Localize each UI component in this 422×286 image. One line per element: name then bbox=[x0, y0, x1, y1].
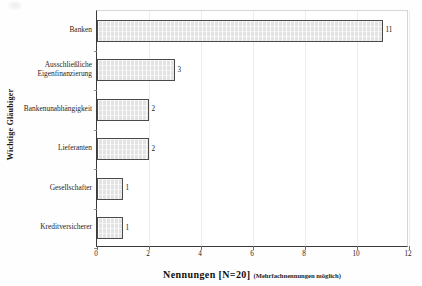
x-tick-mark bbox=[409, 246, 410, 250]
x-tick-mark bbox=[357, 246, 358, 250]
bar-value-label: 3 bbox=[178, 67, 182, 74]
bar[interactable] bbox=[97, 20, 383, 42]
x-tick-label: 6 bbox=[250, 250, 254, 258]
category-label: Kreditversicherer bbox=[18, 223, 92, 232]
bar-value-label: 2 bbox=[152, 146, 156, 153]
x-tick-mark bbox=[97, 246, 98, 250]
bar[interactable] bbox=[97, 99, 149, 121]
y-axis-title-text: Wichtige Gläubiger bbox=[7, 88, 16, 159]
bar-row[interactable]: 2 bbox=[97, 99, 155, 121]
bar-row[interactable]: 1 bbox=[97, 217, 129, 239]
bar[interactable] bbox=[97, 59, 175, 81]
y-tick-mark bbox=[94, 169, 98, 170]
x-tick-label: 2 bbox=[146, 250, 150, 258]
bar[interactable] bbox=[97, 138, 149, 160]
gridline bbox=[409, 11, 410, 246]
bar-chart: Wichtige Gläubiger BankenAusschließliche… bbox=[0, 0, 422, 286]
x-tick-label: 10 bbox=[352, 250, 359, 258]
x-tick-label: 12 bbox=[404, 250, 411, 258]
bar-value-label: 1 bbox=[126, 185, 130, 192]
bar-value-label: 2 bbox=[152, 106, 156, 113]
bar[interactable] bbox=[97, 178, 123, 200]
bar-row[interactable]: 3 bbox=[97, 59, 181, 81]
x-tick-label: 0 bbox=[94, 250, 98, 258]
x-tick-label: 8 bbox=[302, 250, 306, 258]
y-tick-mark bbox=[94, 209, 98, 210]
category-label: Banken bbox=[18, 25, 92, 34]
plot-area: 1132211 bbox=[96, 10, 408, 247]
bar-value-label: 11 bbox=[386, 27, 393, 34]
category-label-list: BankenAusschließlicheEigenfinanzierungBa… bbox=[18, 0, 92, 248]
x-axis-title-note: (Mehrfachnennungen möglich) bbox=[254, 272, 341, 279]
x-tick-mark bbox=[253, 246, 254, 250]
x-axis-title-main: Nennungen [N=20] bbox=[163, 269, 250, 280]
bar[interactable] bbox=[97, 217, 123, 239]
bar-row[interactable]: 1 bbox=[97, 178, 129, 200]
category-label: Lieferanten bbox=[18, 144, 92, 153]
bar-row[interactable]: 11 bbox=[97, 20, 392, 42]
y-tick-mark bbox=[94, 90, 98, 91]
y-tick-mark bbox=[94, 130, 98, 131]
category-label: Bankenunabhängigkeit bbox=[18, 104, 92, 113]
x-tick-label: 4 bbox=[198, 250, 202, 258]
category-label: Gesellschafter bbox=[18, 183, 92, 192]
category-label: AusschließlicheEigenfinanzierung bbox=[18, 60, 92, 78]
x-tick-label-list: 024681012 bbox=[96, 250, 408, 262]
x-axis-title: Nennungen [N=20](Mehrfachnennungen mögli… bbox=[96, 264, 408, 282]
y-tick-mark bbox=[94, 51, 98, 52]
bar-value-label: 1 bbox=[126, 225, 130, 232]
bar-row[interactable]: 2 bbox=[97, 138, 155, 160]
x-tick-mark bbox=[149, 246, 150, 250]
x-tick-mark bbox=[201, 246, 202, 250]
bar-series: 1132211 bbox=[97, 11, 407, 246]
y-tick-mark bbox=[94, 248, 98, 249]
x-tick-mark bbox=[305, 246, 306, 250]
